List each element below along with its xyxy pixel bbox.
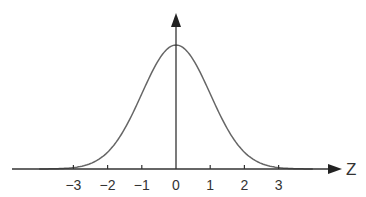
- x-tick-label: 3: [275, 177, 283, 193]
- y-axis-arrowhead-icon: [171, 13, 181, 27]
- x-tick-label: −1: [134, 177, 150, 193]
- x-tick-label: 0: [172, 177, 180, 193]
- x-axis-arrowhead-icon: [328, 164, 342, 174]
- x-tick-label: 2: [241, 177, 249, 193]
- x-axis-label: Z: [346, 160, 356, 179]
- normal-distribution-chart: −3−2−10123 Z: [0, 0, 366, 197]
- x-tick-label: 1: [206, 177, 214, 193]
- x-tick-label: −3: [65, 177, 81, 193]
- x-tick-label: −2: [100, 177, 116, 193]
